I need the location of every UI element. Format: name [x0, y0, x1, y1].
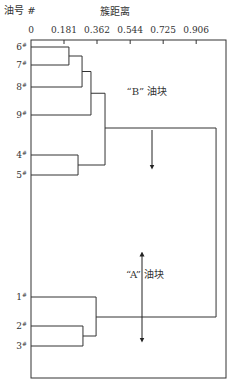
- leaf-label: 7#: [16, 59, 27, 70]
- x-tick-label: 0.906: [183, 25, 209, 35]
- y-axis-title: 油号 #: [4, 4, 36, 16]
- leaf-label: 2#: [16, 320, 27, 331]
- x-tick-label: 0.544: [117, 25, 143, 35]
- leaf-label: 8#: [16, 81, 27, 92]
- leaf-label: 4#: [16, 149, 27, 160]
- leaf-label: 5#: [16, 169, 27, 180]
- leaf-label: 6#: [16, 41, 27, 52]
- dendrogram-chart: 油号 # 簇距离 00.1810.3620.5440.7250.906 6#7#…: [0, 0, 235, 386]
- leaf-label: 9#: [16, 109, 27, 120]
- x-tick-label: 0.181: [51, 25, 77, 35]
- x-tick-label: 0.362: [84, 25, 110, 35]
- leaf-label: 3#: [16, 340, 27, 351]
- group-a-label: “A” 油块: [126, 268, 164, 280]
- group-b-label: “B” 油块: [127, 85, 168, 97]
- x-tick-label: 0: [28, 25, 34, 35]
- x-axis-title: 簇距离: [100, 5, 130, 17]
- x-tick-label: 0.725: [150, 25, 176, 35]
- leaf-label: 1#: [16, 291, 27, 302]
